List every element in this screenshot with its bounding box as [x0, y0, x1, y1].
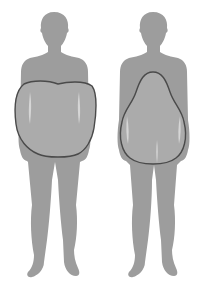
left-apple-overlay — [15, 81, 96, 157]
diagram-svg — [0, 0, 205, 298]
body-shape-diagram — [0, 0, 205, 298]
